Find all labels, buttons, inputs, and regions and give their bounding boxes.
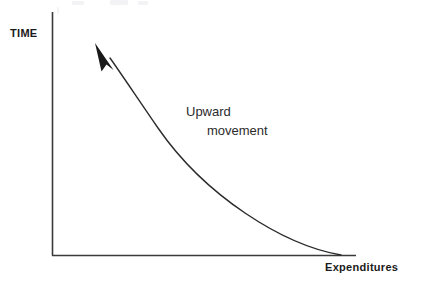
diagram-figure: TIME Expenditures Upward movement bbox=[0, 0, 435, 281]
curve-arrowhead bbox=[95, 43, 114, 72]
curve-annotation: Upward movement bbox=[186, 102, 268, 140]
curve-annotation-line-1: Upward bbox=[186, 104, 231, 119]
curve-annotation-line-2: movement bbox=[186, 121, 268, 140]
x-axis-title: Expenditures bbox=[325, 261, 398, 273]
plot-area bbox=[0, 0, 435, 281]
upward-movement-curve bbox=[110, 58, 341, 255]
y-axis-title: TIME bbox=[10, 27, 37, 39]
